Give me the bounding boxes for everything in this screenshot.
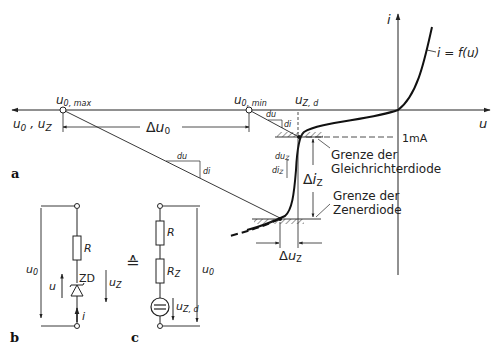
resistor-r-c (156, 221, 164, 245)
terminal-top-b (75, 204, 80, 209)
u0-label-c: u0 (202, 263, 214, 277)
uzd-label-c: uZ, d (176, 300, 200, 314)
delta-u0-label: Δu0 (146, 119, 170, 136)
u0-uz-axis-label: u0 , uZ (13, 117, 52, 133)
zener-diode-diagram: i u u0 , uZ i = f(u) u0, max u0, min uZ,… (0, 0, 503, 359)
current-i-label: i (82, 310, 85, 323)
duz-label: duZ (275, 152, 290, 161)
zener-limit-text-2: Zenerdiode (333, 203, 402, 217)
delta-uz-label: ΔuZ (279, 248, 302, 264)
uzd-label: uZ, d (295, 93, 319, 108)
equivalence-symbol: ≙ (126, 253, 139, 272)
uz-label-b: uZ (109, 276, 122, 290)
zener-limit-leader (316, 204, 330, 217)
panel-b-circuit: R ZD i u0 u uZ b (10, 204, 122, 346)
terminal-bottom-b (75, 324, 80, 329)
u-axis-label: u (479, 116, 487, 131)
panel-a-label: a (11, 166, 20, 181)
rectifier-limit-text-2: Gleichrichterdiode (331, 162, 441, 176)
terminal-top-c (158, 204, 163, 209)
resistor-rz-c (156, 259, 164, 283)
u0-label-b: u0 (26, 263, 38, 277)
knee-point (297, 135, 301, 139)
zener-diode-label: ZD (79, 272, 95, 285)
du-label-max: du (177, 152, 187, 161)
u-label-b: u (49, 280, 56, 293)
curve-label: i = f(u) (437, 46, 479, 60)
dc-source-symbol (151, 298, 169, 316)
u0-min-label: u0, min (234, 93, 267, 108)
resistor-rz-label-c: RZ (167, 265, 181, 279)
zener-limit-text-1: Grenze der (333, 189, 399, 203)
slope-triangle-zener (287, 160, 289, 178)
resistor-r-label-b: R (84, 242, 92, 255)
panel-b-label: b (10, 330, 19, 345)
u0-max-label: u0, max (56, 93, 91, 108)
rectifier-limit-text-1: Grenze der (331, 148, 397, 162)
di-label-min: di (284, 120, 292, 129)
zener-point (278, 217, 282, 221)
resistor-r-label-c: R (167, 226, 175, 239)
rectifier-limit-leader (318, 139, 330, 148)
panel-a-characteristic: i u u0 , uZ i = f(u) u0, max u0, min uZ,… (11, 12, 490, 275)
one-ma-label: 1mA (402, 132, 428, 145)
diz-label: diZ (272, 166, 284, 175)
panel-c-equivalent-circuit: R RZ uZ, d u0 c (131, 204, 214, 346)
delta-iz-label: ΔiZ (303, 171, 323, 188)
du-label-min: du (266, 110, 276, 119)
di-label-max: di (203, 167, 211, 176)
i-axis-label: i (387, 12, 391, 27)
panel-c-label: c (131, 330, 139, 345)
resistor-r-b (73, 236, 81, 260)
terminal-bottom-c (158, 324, 163, 329)
curve-label-leader (427, 50, 436, 52)
